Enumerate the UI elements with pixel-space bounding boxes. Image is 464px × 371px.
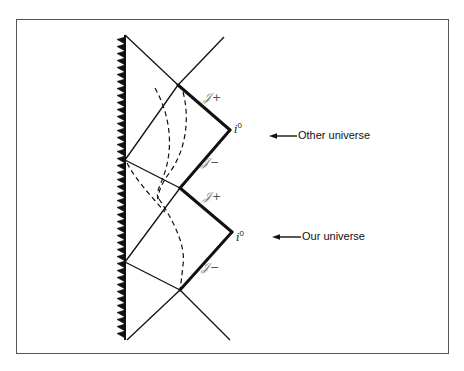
null-lines <box>125 35 230 340</box>
arrow-head-icon <box>272 234 280 240</box>
scri-glyph: 𝒥 <box>201 260 209 274</box>
scri-sign: − <box>210 156 219 169</box>
lower-mid <box>125 262 180 290</box>
label-other-i0: i0 <box>234 122 242 135</box>
scri-glyph: 𝒥 <box>201 155 209 169</box>
label-our-scri-plus: 𝒥+ <box>203 190 221 202</box>
worldlines-dashed <box>127 88 186 290</box>
bottom-right <box>180 290 230 340</box>
annotation-arrows <box>269 133 301 240</box>
mid-left-up <box>125 188 180 262</box>
bottom-left <box>127 290 180 340</box>
label-other-scri-plus: 𝒥+ <box>203 91 221 103</box>
scri-sign: + <box>212 91 221 104</box>
superscript-zero: 0 <box>238 121 242 130</box>
arrow-head-icon <box>269 133 277 139</box>
worldline-a <box>155 88 169 199</box>
scri-sign: − <box>210 261 219 274</box>
annotation-other-universe: Other universe <box>298 130 370 141</box>
singularity-zigzag <box>117 35 125 340</box>
annotation-our-universe: Our universe <box>302 231 365 242</box>
upper-ray <box>125 35 178 85</box>
label-our-i0: i0 <box>236 230 244 243</box>
label-our-scri-minus: 𝒥− <box>201 261 219 273</box>
scri-sign: + <box>212 190 221 203</box>
worldline-d <box>159 199 183 290</box>
label-other-scri-minus: 𝒥− <box>201 156 219 168</box>
scri-glyph: 𝒥 <box>203 189 211 203</box>
zigzag-teeth <box>117 37 125 338</box>
scri-glyph: 𝒥 <box>203 90 211 104</box>
superscript-zero: 0 <box>240 229 244 238</box>
top-left-down <box>125 85 178 160</box>
upper-diag-right <box>178 37 224 85</box>
penrose-diagram <box>0 0 464 371</box>
